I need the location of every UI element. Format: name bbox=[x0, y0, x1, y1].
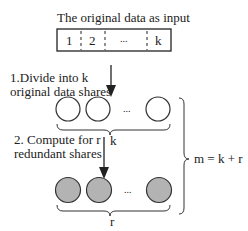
step1-label-line1: 1.Divide into k bbox=[10, 71, 88, 85]
original-share-circle bbox=[56, 97, 80, 121]
step2-label-line2: redundant shares bbox=[14, 147, 102, 161]
brace-m bbox=[179, 98, 189, 214]
input-cell-ellipsis: ... bbox=[120, 32, 128, 46]
original-share-circle bbox=[146, 97, 170, 121]
redundant-ellipsis: ... bbox=[124, 183, 132, 197]
redundant-share-circle bbox=[87, 178, 112, 203]
input-data-box bbox=[57, 29, 171, 51]
redundant-share-circle bbox=[56, 178, 81, 203]
original-ellipsis: ... bbox=[123, 102, 131, 116]
original-share-circle bbox=[86, 97, 110, 121]
step1-label-line2: original data shares bbox=[10, 85, 111, 99]
step2-label-line1: 2. Compute for r bbox=[14, 133, 101, 147]
input-cell-k: k bbox=[155, 34, 162, 48]
label-r: r bbox=[110, 215, 114, 229]
redundant-share-circle bbox=[147, 178, 172, 203]
total-label: m = k + r bbox=[194, 152, 243, 166]
input-cell-1: 1 bbox=[66, 34, 73, 48]
label-k: k bbox=[110, 134, 117, 148]
input-cell-2: 2 bbox=[89, 34, 96, 48]
